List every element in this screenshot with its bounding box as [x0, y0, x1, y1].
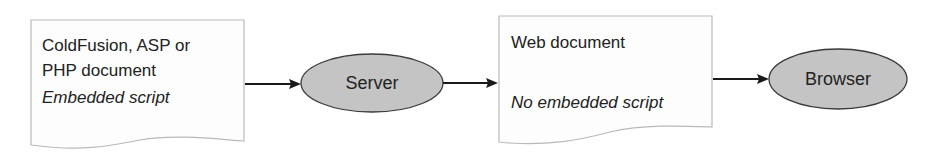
web-doc-subtitle: No embedded script: [511, 93, 664, 112]
source-doc-line-2: PHP document: [42, 61, 156, 80]
arrow-server-to-webdoc: [443, 78, 498, 88]
web-document-node: Web document No embedded script: [499, 16, 712, 144]
arrow-source-to-server: [245, 79, 301, 89]
source-document-node: ColdFusion, ASP or PHP document Embedded…: [31, 20, 244, 148]
source-doc-line-1: ColdFusion, ASP or: [42, 36, 190, 55]
arrow-webdoc-to-browser: [713, 74, 769, 84]
server-node: Server: [301, 54, 443, 112]
server-label: Server: [345, 73, 398, 93]
flow-diagram: ColdFusion, ASP or PHP document Embedded…: [0, 0, 931, 152]
source-doc-subtitle: Embedded script: [42, 88, 171, 107]
browser-node: Browser: [769, 49, 907, 109]
web-doc-line-1: Web document: [511, 33, 625, 52]
browser-label: Browser: [805, 69, 871, 89]
